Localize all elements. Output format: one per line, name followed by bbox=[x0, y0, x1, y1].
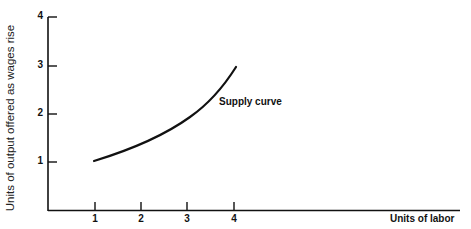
x-axis-label: Units of labor bbox=[390, 213, 454, 224]
supply-curve-line bbox=[94, 67, 236, 161]
y-tick-label-4: 4 bbox=[31, 10, 43, 21]
x-tick-label-2: 2 bbox=[135, 213, 147, 224]
x-axis-ticks bbox=[95, 202, 234, 210]
supply-curve-annotation: Supply curve bbox=[219, 96, 282, 107]
chart-plot-area bbox=[0, 0, 471, 229]
y-axis-ticks bbox=[48, 17, 57, 162]
x-tick-label-1: 1 bbox=[89, 213, 101, 224]
y-axis-label: Units of output offered as wages rise bbox=[4, 18, 16, 218]
y-tick-label-3: 3 bbox=[31, 59, 43, 70]
supply-curve-chart: Units of output offered as wages rise 4 … bbox=[0, 0, 471, 229]
y-tick-label-2: 2 bbox=[31, 107, 43, 118]
y-tick-label-1: 1 bbox=[31, 155, 43, 166]
x-tick-label-4: 4 bbox=[228, 213, 240, 224]
x-tick-label-3: 3 bbox=[181, 213, 193, 224]
